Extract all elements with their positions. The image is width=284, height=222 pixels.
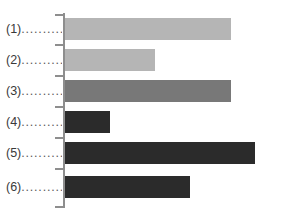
bar-3 (65, 80, 231, 102)
bar-2 (65, 49, 155, 71)
category-label-1: (1).......... (6, 21, 62, 37)
category-leader-dots-6: .......... (21, 180, 62, 194)
bar-1 (65, 18, 231, 40)
category-leader-dots-4: .......... (21, 115, 62, 129)
category-label-2: (2).......... (6, 52, 62, 68)
bar-6 (65, 176, 190, 198)
category-label-4: (4).......... (6, 114, 62, 130)
category-label-text-3: (3) (6, 84, 21, 98)
y-axis-labels: (1)..........(2)..........(3)..........(… (0, 0, 63, 222)
category-label-text-1: (1) (6, 22, 21, 36)
category-label-6: (6).......... (6, 179, 62, 195)
bar-4 (65, 111, 110, 133)
category-leader-dots-5: .......... (21, 146, 62, 160)
category-leader-dots-2: .......... (21, 53, 62, 67)
bar-chart: (1)..........(2)..........(3)..........(… (0, 0, 284, 222)
category-label-text-6: (6) (6, 180, 21, 194)
category-label-5: (5).......... (6, 145, 62, 161)
category-label-text-5: (5) (6, 146, 21, 160)
category-label-3: (3).......... (6, 83, 62, 99)
category-label-text-4: (4) (6, 115, 21, 129)
bar-5 (65, 142, 255, 164)
category-label-text-2: (2) (6, 53, 21, 67)
category-leader-dots-1: .......... (21, 22, 62, 36)
category-leader-dots-3: .......... (21, 84, 62, 98)
